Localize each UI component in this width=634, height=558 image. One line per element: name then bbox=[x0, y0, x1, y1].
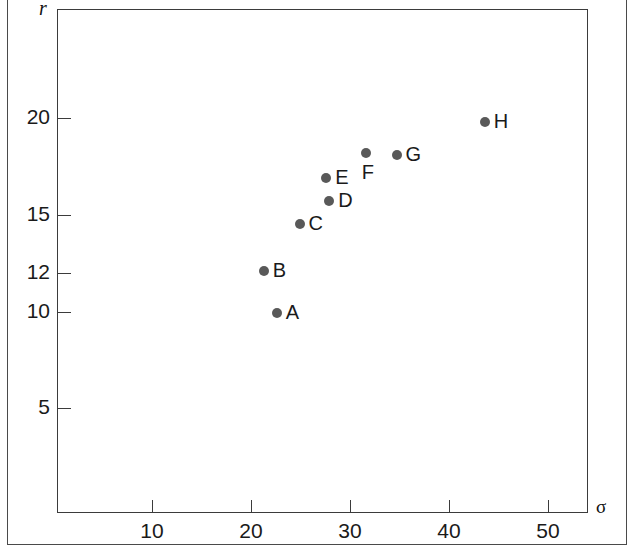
plot-axes-frame bbox=[57, 9, 588, 513]
data-point-f bbox=[361, 148, 371, 158]
y-tick-label-15: 15 bbox=[0, 202, 50, 226]
y-axis-label: r bbox=[39, 0, 47, 20]
scatter-plot-figure: r σ 20 15 12 10 5 10 20 30 40 50 ABCDEFG… bbox=[0, 0, 634, 558]
data-point-label-e: E bbox=[335, 166, 348, 189]
data-point-b bbox=[259, 266, 269, 276]
y-tick-label-10: 10 bbox=[0, 299, 50, 323]
data-point-h bbox=[480, 117, 490, 127]
data-point-label-g: G bbox=[406, 143, 422, 166]
x-tick-mark-10 bbox=[152, 500, 153, 513]
data-point-label-f: F bbox=[362, 161, 374, 184]
data-point-c bbox=[295, 219, 305, 229]
y-tick-mark-20 bbox=[58, 118, 71, 119]
data-point-g bbox=[392, 150, 402, 160]
data-point-label-a: A bbox=[286, 301, 299, 324]
y-tick-mark-10 bbox=[58, 312, 71, 313]
x-axis-label: σ bbox=[596, 496, 606, 518]
x-tick-label-30: 30 bbox=[320, 519, 380, 543]
y-tick-mark-5 bbox=[58, 408, 71, 409]
x-tick-label-40: 40 bbox=[419, 519, 479, 543]
y-tick-mark-15 bbox=[58, 215, 71, 216]
x-tick-mark-50 bbox=[548, 500, 549, 513]
x-tick-mark-30 bbox=[350, 500, 351, 513]
x-tick-label-50: 50 bbox=[518, 519, 578, 543]
data-point-label-c: C bbox=[309, 212, 323, 235]
y-tick-label-12: 12 bbox=[0, 260, 50, 284]
y-tick-mark-12 bbox=[58, 273, 71, 274]
data-point-label-h: H bbox=[494, 110, 508, 133]
data-point-label-b: B bbox=[273, 259, 286, 282]
y-tick-label-20: 20 bbox=[0, 105, 50, 129]
x-tick-mark-40 bbox=[449, 500, 450, 513]
data-point-a bbox=[272, 308, 282, 318]
x-tick-label-20: 20 bbox=[221, 519, 281, 543]
data-point-label-d: D bbox=[338, 189, 352, 212]
x-tick-mark-20 bbox=[251, 500, 252, 513]
y-tick-label-5: 5 bbox=[0, 395, 50, 419]
x-tick-label-10: 10 bbox=[122, 519, 182, 543]
